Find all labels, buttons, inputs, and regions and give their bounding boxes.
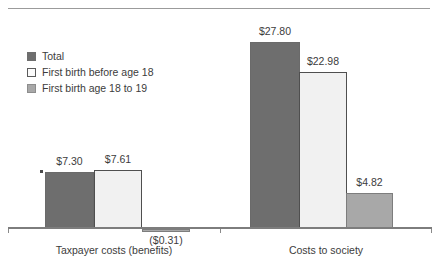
category-label-costs-to-society: Costs to society [220, 244, 432, 256]
category-label-taxpayer-costs: Taxpayer costs (benefits) [8, 244, 220, 256]
bar-group2-total [250, 42, 300, 228]
axis-tick-right [431, 229, 432, 233]
footnote-marker-icon [40, 170, 43, 173]
bar-group1-total [45, 172, 94, 228]
bar-label-group1-before-18: $7.61 [94, 153, 142, 165]
bar-label-group1-total: $7.30 [45, 155, 94, 167]
axis-tick-middle [220, 229, 221, 233]
axis-tick-left [8, 229, 9, 233]
bar-group2-before-18 [299, 72, 347, 228]
bar-label-group2-18-to-19: $4.82 [346, 176, 393, 188]
bar-label-group2-before-18: $22.98 [299, 55, 347, 67]
plot-area: $7.30 $7.61 ($0.31) $27.80 $22.98 $4.82 … [0, 0, 437, 272]
bar-label-group2-total: $27.80 [250, 25, 300, 37]
bar-group1-18-to-19 [142, 229, 190, 232]
bar-chart: Total First birth before age 18 First bi… [0, 0, 437, 272]
bar-group1-before-18 [94, 170, 142, 228]
bar-group2-18-to-19 [346, 193, 393, 228]
